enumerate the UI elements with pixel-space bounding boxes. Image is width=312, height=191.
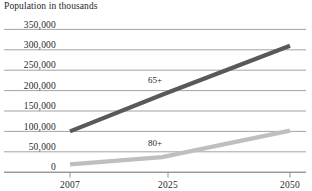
- y-axis-tick-labels: 350,000 300,000 250,000 200,000 150,000 …: [24, 20, 56, 173]
- ytick-label-100000: 100,000: [24, 122, 56, 132]
- series-label-80plus: 80+: [148, 138, 162, 148]
- ytick-label-300000: 300,000: [24, 40, 56, 50]
- ytick-label-50000: 50,000: [29, 142, 56, 152]
- population-line-chart: Population in thousands 350,000 300,000 …: [0, 0, 312, 191]
- x-axis-tickmarks: [70, 172, 290, 177]
- ytick-label-150000: 150,000: [24, 101, 56, 111]
- xtick-label-2007: 2007: [60, 180, 80, 190]
- ytick-label-250000: 250,000: [24, 60, 56, 70]
- ytick-label-350000: 350,000: [24, 20, 56, 30]
- series-label-65plus: 65+: [148, 75, 162, 85]
- chart-plot-area: 350,000 300,000 250,000 200,000 150,000 …: [0, 0, 312, 191]
- series-line-80plus: [70, 131, 290, 165]
- ytick-label-0: 0: [51, 162, 56, 172]
- xtick-label-2025: 2025: [158, 180, 178, 190]
- ytick-label-200000: 200,000: [24, 81, 56, 91]
- xtick-label-2050: 2050: [280, 180, 300, 190]
- x-axis-tick-labels: 2007 2025 2050: [60, 180, 300, 190]
- series-line-65plus: [70, 46, 290, 132]
